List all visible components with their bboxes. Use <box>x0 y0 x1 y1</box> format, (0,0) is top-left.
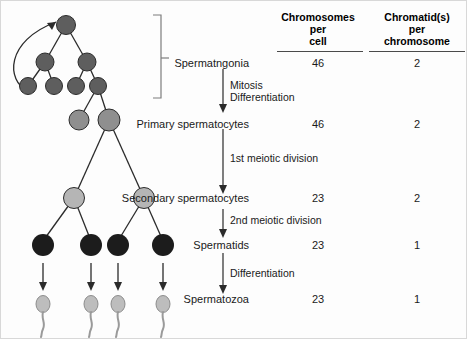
spermatogonium <box>46 78 63 95</box>
primary-spermatocyte-cells <box>69 109 120 131</box>
spermatogonium <box>90 78 107 95</box>
chromatids-header-line3: chromosome <box>367 36 467 48</box>
transition-label-differentiation-2: Differentiation <box>230 267 295 279</box>
transition-label-differentiation-1: Differentiation <box>230 91 295 103</box>
chromosomes-column-rule <box>277 51 363 52</box>
stage-label-spermatozoa: Spermatozoa <box>184 293 249 305</box>
transition-label-first-meiotic-division: 1st meiotic division <box>230 152 318 164</box>
spermatid <box>32 234 54 256</box>
chromosomes-value-spermatids: 23 <box>273 239 363 251</box>
spermatogonium <box>20 78 37 95</box>
chromatids-header-line1: Chromatid(s) <box>367 12 467 24</box>
chromosomes-header-line1: Chromosomes <box>273 12 363 24</box>
chromosomes-value-primary-spermatocytes: 46 <box>273 118 363 130</box>
transition-label-second-meiotic-division: 2nd meiotic division <box>230 214 322 226</box>
chromosomes-header-line3: cell <box>273 36 363 48</box>
spermatogonia-bracket <box>153 15 161 98</box>
spermatozoon <box>36 296 50 338</box>
spermatogonium <box>36 53 54 71</box>
chromatids-value-primary-spermatocytes: 2 <box>367 118 467 130</box>
spermatozoon <box>111 296 125 338</box>
chromatids-value-spermatids: 1 <box>367 239 467 251</box>
chromatids-value-secondary-spermatocytes: 2 <box>367 192 467 204</box>
primary-spermatocyte <box>98 109 120 131</box>
spermatogonium <box>78 53 96 71</box>
stage-label-spermatogonia: Spermatngonia <box>174 57 249 69</box>
stage-label-primary-spermatocytes: Primary spermatocytes <box>137 118 249 130</box>
differentiation-arrowheads <box>39 282 167 291</box>
chromosomes-value-secondary-spermatocytes: 23 <box>273 192 363 204</box>
spermatid <box>152 234 174 256</box>
spermatozoon <box>156 296 170 338</box>
chromosomes-value-spermatogonia: 46 <box>273 57 363 69</box>
chromosomes-header-line2: per <box>273 24 363 36</box>
spermatid-cells <box>32 234 174 256</box>
chromosomes-value-spermatozoa: 23 <box>273 293 363 305</box>
stage-label-spermatids: Spermatids <box>193 239 249 251</box>
chromatids-value-spermatozoa: 1 <box>367 293 467 305</box>
spermatozoa-cells <box>36 296 170 338</box>
spermatid <box>80 234 102 256</box>
chromatids-header-line2: per <box>367 24 467 36</box>
chromatids-column-rule <box>369 51 465 52</box>
spermatid <box>107 234 129 256</box>
spermatogonia-cells <box>20 16 107 95</box>
spermatogonium <box>68 78 85 95</box>
differentiation-arrows <box>43 263 163 286</box>
spermatozoon <box>84 296 98 338</box>
secondary-spermatocyte <box>64 188 85 209</box>
transition-label-mitosis: Mitosis <box>230 79 263 91</box>
chromatids-value-spermatogonia: 2 <box>367 57 467 69</box>
primary-spermatocyte <box>69 110 89 130</box>
stage-label-secondary-spermatocytes: Secondary spermatocytes <box>122 192 249 204</box>
spermatogonium-apex <box>57 16 76 35</box>
self-renewal-arrowhead <box>47 22 56 30</box>
spermatogenesis-figure: Spermatngonia Primary spermatocytes Seco… <box>0 0 467 339</box>
cell-lineage-diagram <box>1 1 201 339</box>
